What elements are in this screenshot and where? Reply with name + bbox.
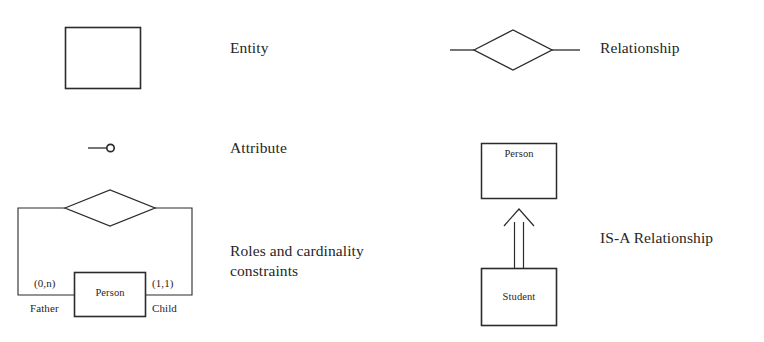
legend-label-relationship: Relationship [600, 38, 680, 58]
legend-label-roles-cardinality: Roles and cardinality constraints [230, 241, 430, 281]
entity-symbol-rectangle [66, 28, 141, 89]
isa-parent-entity-label: Person [481, 148, 557, 159]
legend-label-entity: Entity [230, 38, 269, 58]
isa-child-entity-label: Student [481, 291, 557, 302]
roles-left-cardinality-label: (0,n) [34, 277, 56, 289]
legend-label-is-a-relationship: IS-A Relationship [600, 228, 713, 248]
isa-arrow-head [504, 209, 534, 226]
attribute-symbol-circle [107, 144, 114, 151]
legend-label-attribute: Attribute [230, 138, 287, 158]
roles-left-role-label: Father [30, 302, 59, 314]
roles-right-cardinality-label: (1,1) [152, 277, 174, 289]
relationship-symbol-diamond [474, 30, 552, 70]
er-legend-canvas: Entity Relationship Attribute Roles and … [0, 0, 764, 342]
roles-relationship-diamond [65, 190, 155, 226]
roles-person-entity-label: Person [74, 287, 146, 298]
roles-right-role-label: Child [152, 302, 177, 314]
